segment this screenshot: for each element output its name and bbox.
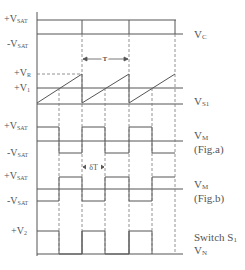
guide-lines	[37, 34, 175, 254]
caption-fig-a: (Fig.a)	[194, 144, 224, 155]
label-vsat-pos-a: +VSAT	[4, 121, 28, 131]
period-text: T	[103, 55, 108, 63]
label-vsat-neg-vc: -VSAT	[7, 39, 28, 49]
label-v2: +V2	[11, 226, 27, 236]
signal-vn: VN	[194, 245, 207, 257]
label-vsat-pos-vc: +VSAT	[4, 14, 28, 24]
label-vr: +VR	[14, 68, 31, 78]
label-vsat-neg-b: -VSAT	[7, 196, 28, 206]
signal-vm-b: VM	[194, 179, 208, 191]
signal-vc: VC	[194, 29, 207, 41]
label-v1: +V1	[14, 83, 30, 93]
vm-a-waveform	[37, 127, 175, 153]
signal-vs1: VS1	[194, 96, 209, 108]
signal-switch-s1: Switch S1	[194, 232, 237, 244]
waveform-diagram: T T δT	[0, 0, 245, 270]
duty-label: δT	[89, 163, 98, 172]
label-vsat-pos-b: +VSAT	[4, 171, 28, 181]
label-vsat-neg-a: -VSAT	[7, 148, 28, 158]
signal-vm-a: VM	[194, 130, 208, 142]
caption-fig-b: (Fig.b)	[194, 193, 224, 204]
switch-waveform	[37, 231, 152, 254]
